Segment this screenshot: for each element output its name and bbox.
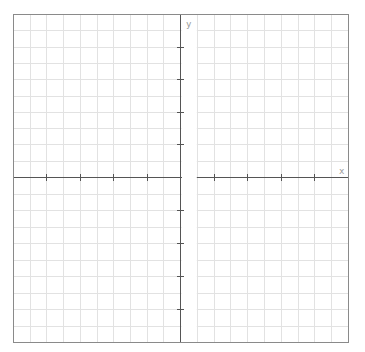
- x-axis-label: x: [339, 166, 345, 176]
- gap-band: [182, 15, 197, 341]
- y-axis-label: y: [186, 19, 192, 29]
- coordinate-grid: y x: [0, 0, 365, 352]
